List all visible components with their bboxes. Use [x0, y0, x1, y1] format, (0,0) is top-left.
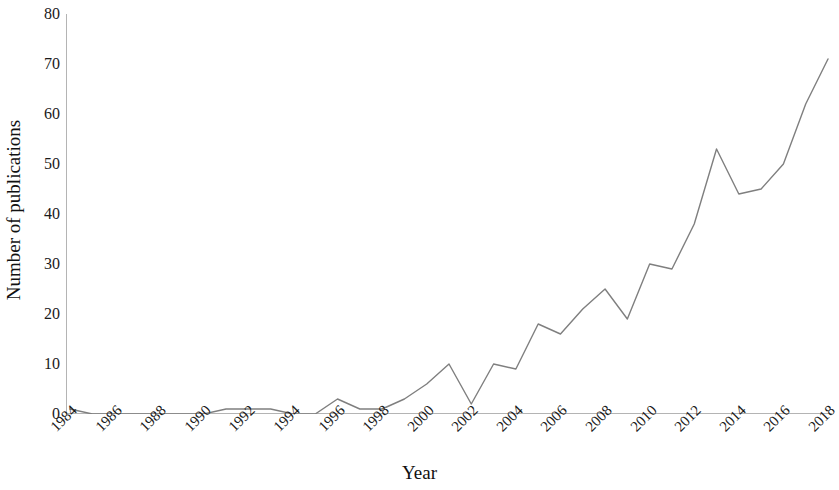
publications-line-chart: Number of publications 01020304050607080… [0, 0, 839, 490]
y-axis-tick-labels: 01020304050607080 [26, 0, 60, 430]
y-tick-label: 60 [30, 106, 60, 122]
y-tick-label: 20 [30, 306, 60, 322]
y-tick-label: 40 [30, 206, 60, 222]
y-tick-label: 30 [30, 256, 60, 272]
y-axis-title-text: Number of publications [3, 120, 25, 300]
y-axis-title: Number of publications [0, 0, 28, 420]
data-series-line [70, 59, 828, 414]
y-tick-label: 80 [30, 6, 60, 22]
x-axis-title-text: Year [402, 462, 437, 483]
plot-area [66, 14, 832, 414]
y-tick-label: 70 [30, 56, 60, 72]
x-axis-title: Year [0, 462, 839, 484]
y-tick-label: 50 [30, 156, 60, 172]
y-tick-label: 10 [30, 356, 60, 372]
plot-svg [66, 14, 832, 414]
